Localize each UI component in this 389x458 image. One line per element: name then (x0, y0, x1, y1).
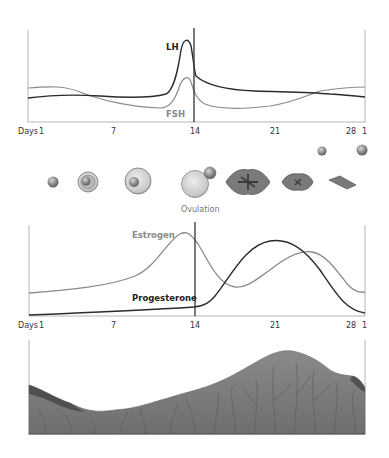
tick-day-1-next: 1 (362, 127, 367, 136)
new-follicle-large-icon (357, 145, 368, 156)
lh-curve (28, 40, 365, 98)
tick-day-28: 28 (346, 127, 356, 136)
gonadotropin-chart: LH FSH Days 1 7 14 21 28 1 (18, 28, 367, 136)
new-follicle-small-icon (318, 147, 327, 156)
lh-label: LH (166, 42, 179, 52)
ovarian-cycle-illustration: Ovulation (48, 145, 368, 215)
tick2-day-1-next: 1 (362, 321, 367, 330)
progesterone-curve (29, 241, 365, 315)
secondary-follicle-icon (125, 168, 151, 194)
tick2-day-28: 28 (346, 321, 356, 330)
tick-day-21: 21 (270, 127, 280, 136)
regressing-corpus-luteum-icon (282, 174, 313, 190)
tick2-day-1: 1 (39, 321, 44, 330)
axis-prefix-2: Days (18, 321, 38, 330)
ovulating-follicle-icon (182, 167, 217, 198)
corpus-albicans-icon (329, 176, 356, 189)
progesterone-label: Progesterone (132, 293, 197, 303)
x-axis-ticks-2: Days 1 7 14 21 28 1 (18, 321, 367, 330)
estrogen-label: Estrogen (132, 230, 175, 240)
tick2-day-7: 7 (111, 321, 116, 330)
ovarian-hormone-chart: Estrogen Progesterone Days 1 7 14 21 28 … (18, 222, 367, 330)
primary-follicle-icon (78, 172, 98, 192)
tick-day-7: 7 (111, 127, 116, 136)
tick2-day-14: 14 (190, 321, 200, 330)
axis-prefix: Days (18, 127, 38, 136)
fsh-label: FSH (166, 109, 185, 119)
tick2-day-21: 21 (270, 321, 280, 330)
endometrium-illustration (29, 340, 365, 435)
ovulation-label: Ovulation (181, 205, 220, 214)
corpus-luteum-icon (226, 170, 270, 195)
tick-day-1: 1 (39, 127, 44, 136)
tick-day-14: 14 (190, 127, 200, 136)
primordial-follicle-icon (48, 177, 59, 188)
menstrual-cycle-diagram: LH FSH Days 1 7 14 21 28 1 (0, 0, 389, 458)
x-axis-ticks: Days 1 7 14 21 28 1 (18, 127, 367, 136)
